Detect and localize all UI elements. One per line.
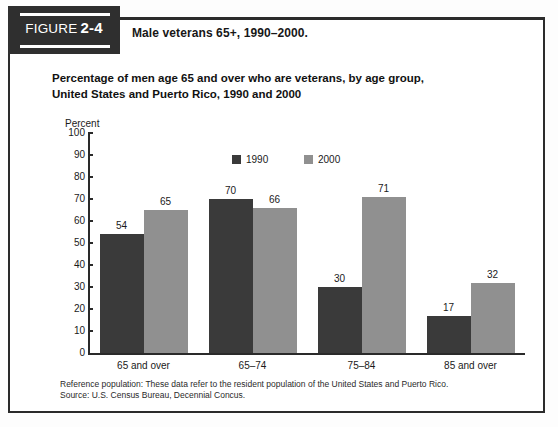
x-axis-label-65-and-over: 65 and over <box>89 360 199 371</box>
bar-value-label: 66 <box>253 194 297 206</box>
footnote-source: Source: U.S. Census Bureau, Decennial Co… <box>60 390 520 401</box>
y-axis-tick: 100 <box>50 127 94 139</box>
bar-1990-85-and-over <box>427 316 471 353</box>
figure-badge: FIGURE2-4 <box>8 6 120 54</box>
legend-swatch-icon <box>304 155 313 164</box>
y-axis-tick: 20 <box>50 303 94 315</box>
x-axis-label-75–84: 75–84 <box>307 360 417 371</box>
y-axis-tick-mark <box>88 330 93 332</box>
legend-swatch-icon <box>232 155 241 164</box>
y-axis-tick-label: 0 <box>79 347 85 359</box>
badge-number: 2-4 <box>80 19 102 36</box>
y-axis-tick-mark <box>88 242 93 244</box>
bar-value-label: 54 <box>100 220 144 232</box>
bar-2000-65–74 <box>253 208 297 353</box>
y-axis-tick-mark <box>88 286 93 288</box>
bar-value-label: 17 <box>427 302 471 314</box>
figure-page: FIGURE2-4 Male veterans 65+, 1990–2000. … <box>0 0 558 427</box>
y-axis-tick-label: 40 <box>74 259 85 271</box>
legend-label: 2000 <box>318 154 340 165</box>
bar-value-label: 70 <box>209 185 253 197</box>
y-axis-tick-label: 90 <box>74 149 85 161</box>
y-axis-tick-mark <box>88 264 93 266</box>
y-axis-tick-label: 70 <box>74 193 85 205</box>
badge-text: FIGURE2-4 <box>8 19 120 36</box>
bar-2000-85-and-over <box>471 283 515 353</box>
footnote-reference: Reference population: These data refer t… <box>60 379 520 390</box>
bar-1990-65-and-over <box>100 234 144 353</box>
x-axis-label-85-and-over: 85 and over <box>416 360 526 371</box>
bar-value-label: 30 <box>318 273 362 285</box>
y-axis-tick-mark <box>88 154 93 156</box>
y-axis-tick-mark <box>88 132 93 134</box>
y-axis-tick: 50 <box>50 237 94 249</box>
bar-1990-65–74 <box>209 199 253 353</box>
y-axis-tick-mark <box>88 176 93 178</box>
x-axis-line <box>88 353 525 355</box>
y-axis-tick-label: 100 <box>68 127 85 139</box>
bar-2000-65-and-over <box>144 210 188 353</box>
y-axis-tick-mark <box>88 198 93 200</box>
y-axis-tick: 30 <box>50 281 94 293</box>
bar-value-label: 32 <box>471 269 515 281</box>
y-axis-tick: 60 <box>50 215 94 227</box>
legend-item-2000[interactable]: 2000 <box>304 149 340 161</box>
chart-footnote: Reference population: These data refer t… <box>60 379 520 401</box>
y-axis-tick-label: 50 <box>74 237 85 249</box>
bar-value-label: 65 <box>144 196 188 208</box>
badge-word: FIGURE <box>25 21 77 36</box>
y-axis-tick-label: 10 <box>74 325 85 337</box>
legend-label: 1990 <box>246 154 268 165</box>
y-axis-tick-label: 30 <box>74 281 85 293</box>
x-axis-label-65–74: 65–74 <box>198 360 308 371</box>
y-axis-tick-label: 20 <box>74 303 85 315</box>
y-axis-tick: 10 <box>50 325 94 337</box>
bar-2000-75–84 <box>362 197 406 353</box>
y-axis-tick-mark <box>88 220 93 222</box>
y-axis-tick-label: 80 <box>74 171 85 183</box>
badge-rule-top <box>20 13 110 16</box>
y-axis-tick: 70 <box>50 193 94 205</box>
badge-rule-bottom <box>20 45 110 48</box>
y-axis-tick: 0 <box>50 347 94 359</box>
bar-value-label: 71 <box>362 183 406 195</box>
y-axis-tick: 90 <box>50 149 94 161</box>
y-axis-tick: 40 <box>50 259 94 271</box>
legend-item-1990[interactable]: 1990 <box>232 149 268 161</box>
bar-1990-75–84 <box>318 287 362 353</box>
y-axis-tick: 80 <box>50 171 94 183</box>
y-axis-tick-label: 60 <box>74 215 85 227</box>
y-axis-tick-mark <box>88 308 93 310</box>
chart-plot-area: Percent 1009080706050403020100 19902000 … <box>0 0 537 396</box>
